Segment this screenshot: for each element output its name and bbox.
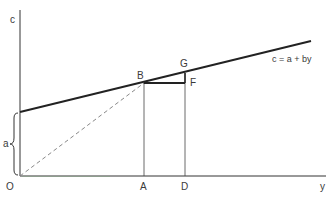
point-label-D: D bbox=[181, 181, 188, 192]
point-label-A: A bbox=[140, 181, 147, 192]
point-label-G: G bbox=[180, 58, 188, 69]
equation-label: c = a + by bbox=[272, 54, 312, 64]
consumption-function-diagram: c y O a B G F A D c = a + by bbox=[0, 0, 329, 199]
horizontal-axis-label: y bbox=[320, 181, 325, 192]
point-label-F: F bbox=[190, 77, 196, 88]
intercept-brace-icon bbox=[10, 113, 18, 175]
consumption-line bbox=[20, 41, 311, 112]
intercept-label: a bbox=[3, 138, 9, 149]
vertical-axis-label: c bbox=[10, 14, 15, 25]
point-label-B: B bbox=[137, 70, 144, 81]
origin-label: O bbox=[6, 181, 14, 192]
